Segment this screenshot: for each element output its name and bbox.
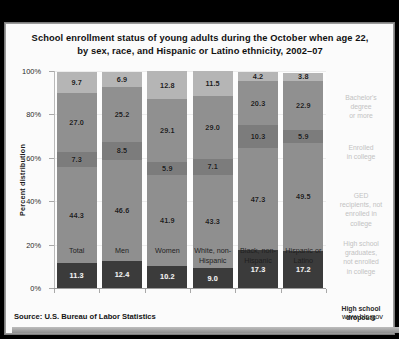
source-note: Source: U.S. Bureau of Labor Statistics [14,312,156,321]
legend-item-label-line: in college [330,152,392,161]
bar-segment-value: 9.0 [207,274,217,283]
x-axis-tick [235,289,236,293]
bar-segment-value: 41.9 [160,216,175,225]
bar-segment-value: 20.3 [251,99,266,108]
bar-segment[interactable]: 20.3 [238,81,278,125]
bar-segment-value: 17.2 [296,265,311,274]
chart-frame: School enrollment status of young adults… [5,23,394,334]
chart-title-line-2: by sex, race, and Hispanic or Latino eth… [16,45,384,58]
y-axis-title: Percent distribution [18,71,27,289]
legend-item-label-line: enrolled in [330,209,392,218]
y-axis-tick: 40% [49,201,54,202]
legend-item-label-line: or more [330,111,392,120]
x-axis-tick [326,289,327,293]
bar-segment-value: 44.3 [69,211,84,220]
bar-segment-value: 7.3 [71,155,81,164]
x-axis-category-line: Total [54,246,99,256]
bar-segment[interactable]: 29.0 [193,96,233,159]
chart-title-line-1: School enrollment status of young adults… [16,32,384,45]
bar-segment[interactable]: 9.7 [57,72,97,93]
legend-item[interactable]: GEDrecipients, notenrolled incollege [330,191,392,228]
bar-segment-value: 10.3 [251,132,266,141]
bar-segment-value: 5.9 [298,132,308,141]
x-axis-category-line: Black, non- [235,246,280,256]
bar-segment-value: 12.8 [160,81,175,90]
y-axis-tick: 100% [49,71,54,72]
bls-url[interactable]: www.bls.gov [342,312,383,321]
bar-segment-value: 43.3 [205,217,220,226]
bar-segment[interactable]: 49.5 [283,143,323,250]
x-axis-category-label: Men [99,246,144,256]
bar-segment[interactable]: 11.3 [57,263,97,288]
bar-segment-value: 11.3 [70,271,84,280]
legend-item-label-line: Bachelor's [330,93,392,102]
bar-segment[interactable]: 47.3 [238,148,278,251]
legend-item-label-line: graduates, [330,248,392,257]
bar-segment-value: 27.0 [69,118,84,127]
legend-item-label-line: GED [330,191,392,200]
legend-item-label-line: in college [330,267,392,276]
bar-segment[interactable]: 3.8 [283,73,323,81]
bar-segment-value: 8.5 [117,146,127,155]
x-axis-category-line: Latino [281,256,326,266]
y-axis-tick-label: 60% [26,153,41,162]
legend-item-label-line: degree [330,102,392,111]
bar-segment-value: 29.1 [160,126,175,135]
y-axis-tick-label: 80% [26,110,41,119]
bar-segment-value: 29.0 [205,123,220,132]
bar-segment[interactable]: 5.9 [283,130,323,143]
x-axis-tick [54,289,55,293]
bar-segment[interactable]: 29.1 [147,99,187,162]
bar-segment-value: 9.7 [71,78,81,87]
bar-segment-value: 25.2 [115,110,130,119]
bar-segment[interactable]: 7.3 [57,152,97,168]
x-axis-tick [281,289,282,293]
bar-segment-value: 10.2 [160,272,175,281]
bar-segment[interactable]: 12.8 [147,71,187,99]
legend-item[interactable]: Bachelor'sdegreeor more [330,93,392,121]
bar-segment[interactable]: 25.2 [102,87,142,142]
bar-segment-value: 6.9 [117,75,127,84]
bar-segment-value: 49.5 [296,192,311,201]
bar-segment-value: 4.2 [253,72,263,81]
bar-segment[interactable]: 4.2 [238,72,278,81]
x-axis-tick [99,289,100,293]
y-axis-tick-label: 0% [30,284,41,293]
x-axis-category-line: Hispanic or [281,246,326,256]
bar-segment[interactable]: 6.9 [102,72,142,87]
legend-item[interactable]: Enrolledin college [330,143,392,161]
x-axis-category-line: Hispanic [235,256,280,266]
x-axis-category-line: Hispanic [190,256,235,266]
legend-item-label-line: recipients, not [330,200,392,209]
chart-legend: High schooldropoutsHigh schoolgraduates,… [330,71,392,291]
bar-segment-value: 47.3 [251,195,266,204]
x-axis-category-label: Total [54,246,99,256]
legend-item-label-line: Enrolled [330,143,392,152]
top-black-band [0,0,399,23]
bottom-bar [12,327,399,333]
x-axis-category-label: White, non-Hispanic [190,246,235,265]
x-axis-category-line: Women [145,246,190,256]
bar-segment[interactable]: 8.5 [102,142,142,160]
x-axis-category-line: Men [99,246,144,256]
bar-segment-value: 11.5 [206,79,220,88]
bar-segment[interactable]: 11.5 [193,71,233,96]
bar-segment[interactable]: 27.0 [57,93,97,152]
legend-item[interactable]: High schoolgraduates,not enrolledin coll… [330,239,392,276]
bar-segment[interactable]: 9.0 [193,268,233,288]
x-axis-category-label: Women [145,246,190,256]
y-axis-tick-label: 20% [26,240,41,249]
bar-segment[interactable]: 5.9 [147,162,187,175]
bar-segment[interactable]: 10.3 [238,125,278,147]
bar-segment[interactable]: 22.9 [283,81,323,131]
x-axis-category-line: White, non- [190,246,235,256]
legend-item-label-line: college [330,219,392,228]
x-axis-tick [145,289,146,293]
bar-segment[interactable]: 12.4 [102,261,142,288]
y-axis-line [54,71,55,289]
x-axis-category-label: Hispanic orLatino [281,246,326,265]
x-axis-category-label: Black, non-Hispanic [235,246,280,265]
bar-segment[interactable]: 10.2 [147,266,187,288]
bar-segment[interactable]: 7.1 [193,159,233,174]
chart-title: School enrollment status of young adults… [16,32,384,57]
